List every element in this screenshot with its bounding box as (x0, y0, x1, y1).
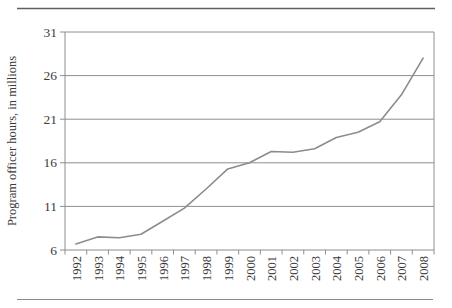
x-tick-label: 1999 (222, 256, 236, 281)
x-tick-label: 1996 (157, 256, 171, 281)
figure: 6111621263119921993199419951996199719981… (0, 0, 452, 308)
x-tick-label: 1997 (178, 256, 192, 281)
y-tick-label: 16 (44, 155, 58, 170)
y-tick-label: 6 (50, 243, 57, 258)
x-tick-label: 1998 (200, 256, 214, 281)
y-tick-label: 21 (44, 112, 58, 127)
x-tick-label: 2006 (374, 256, 388, 281)
line-chart: 6111621263119921993199419951996199719981… (0, 0, 452, 308)
x-tick-label: 2005 (352, 256, 366, 281)
data-line (76, 58, 423, 244)
y-tick-label: 26 (44, 68, 58, 83)
x-tick-label: 2004 (330, 255, 344, 281)
x-tick-label: 2001 (265, 256, 279, 281)
y-tick-label: 11 (44, 199, 57, 214)
x-tick-label: 2003 (309, 256, 323, 281)
y-axis-title: Program officer hours, in millions (5, 56, 19, 226)
x-tick-label: 1992 (70, 256, 84, 281)
x-tick-label: 1995 (135, 256, 149, 281)
x-tick-label: 2002 (287, 256, 301, 281)
x-tick-label: 1994 (113, 255, 127, 281)
x-tick-label: 2007 (395, 256, 409, 281)
x-tick-label: 1993 (92, 256, 106, 281)
y-tick-label: 31 (44, 25, 58, 40)
x-tick-label: 2000 (244, 256, 258, 281)
x-tick-label: 2008 (417, 256, 431, 281)
